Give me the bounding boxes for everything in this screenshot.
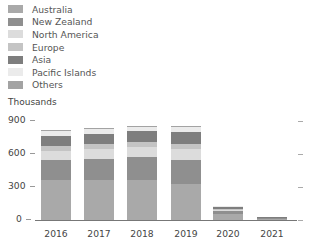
legend-swatch: [8, 30, 23, 38]
bar-segment: [84, 134, 114, 144]
bar-segment: [127, 180, 157, 220]
right-tick-mark: [298, 154, 303, 155]
bar-segment: [171, 184, 201, 220]
x-axis-baseline: [35, 220, 297, 221]
x-tick-label: 2016: [36, 228, 76, 239]
x-tick-label: 2021: [252, 228, 292, 239]
legend-item: Others: [8, 79, 99, 92]
bar-segment: [127, 147, 157, 157]
bar-segment: [127, 157, 157, 180]
chart-legend: AustraliaNew ZealandNorth AmericaEuropeA…: [8, 3, 99, 91]
legend-item: New Zealand: [8, 16, 99, 29]
bar-segment: [171, 149, 201, 160]
legend-item: Europe: [8, 41, 99, 54]
bar-segment: [84, 149, 114, 159]
bar-segment: [41, 180, 71, 220]
y-axis-unit-label: Thousands: [8, 97, 57, 107]
legend-label: Europe: [32, 42, 64, 53]
legend-swatch: [8, 18, 23, 26]
x-tick-label: 2020: [208, 228, 248, 239]
legend-swatch: [8, 56, 23, 64]
legend-label: Australia: [32, 4, 73, 15]
legend-label: New Zealand: [32, 16, 92, 27]
legend-item: North America: [8, 28, 99, 41]
bar-2020: [213, 206, 243, 220]
bar-segment: [84, 180, 114, 220]
bar-2017: [84, 128, 114, 220]
y-tick-mark: [26, 219, 31, 220]
right-tick-mark: [298, 220, 303, 221]
y-tick-mark: [30, 120, 35, 121]
legend-item: Pacific Islands: [8, 66, 99, 79]
y-tick-label: 600: [8, 147, 35, 158]
legend-label: North America: [32, 29, 99, 40]
bar-segment: [171, 160, 201, 184]
bar-segment: [84, 159, 114, 180]
right-tick-mark: [298, 187, 303, 188]
y-tick-label: 0: [16, 213, 31, 224]
legend-label: Others: [32, 79, 63, 90]
bar-segment: [171, 132, 201, 144]
legend-label: Asia: [32, 54, 51, 65]
x-tick-label: 2019: [166, 228, 206, 239]
y-tick-mark: [30, 153, 35, 154]
bar-segment: [127, 131, 157, 142]
bar-segment: [41, 136, 71, 146]
legend-item: Australia: [8, 3, 99, 16]
bar-2016: [41, 130, 71, 220]
legend-swatch: [8, 5, 23, 13]
legend-swatch: [8, 43, 23, 51]
x-tick-label: 2017: [79, 228, 119, 239]
y-tick-label: 900: [8, 114, 35, 125]
bar-segment: [41, 151, 71, 160]
bar-2018: [127, 126, 157, 220]
bar-2019: [171, 126, 201, 220]
y-tick-mark: [30, 186, 35, 187]
legend-swatch: [8, 81, 23, 89]
legend-item: Asia: [8, 53, 99, 66]
bar-segment: [41, 160, 71, 180]
x-tick-label: 2018: [122, 228, 162, 239]
legend-swatch: [8, 68, 23, 76]
right-tick-mark: [298, 121, 303, 122]
legend-label: Pacific Islands: [32, 67, 96, 78]
y-tick-label: 300: [8, 180, 35, 191]
